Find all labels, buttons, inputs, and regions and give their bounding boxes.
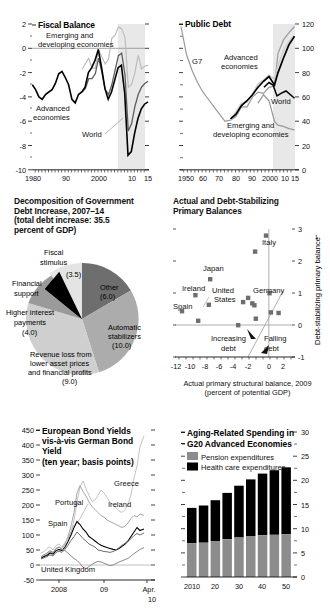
x-tick-label: -8 xyxy=(202,362,209,371)
y-tick-label: 150 xyxy=(22,516,34,525)
bar-pension-2050 xyxy=(281,534,291,577)
pie-label-revenue-loss-l1: Revenue loss from xyxy=(30,350,92,359)
bar-health-2025 xyxy=(222,493,232,539)
scatter-point xyxy=(207,303,211,307)
y-tick-label: 300 xyxy=(22,471,34,480)
scatter-points xyxy=(180,233,281,327)
x-tick-label: 60 xyxy=(199,174,207,183)
pie-label-higher-interest-l1: Higher interest xyxy=(6,308,54,317)
x-tick-label: 10 xyxy=(148,595,156,604)
bar-health-2050 xyxy=(281,467,291,534)
portugal-leader-line xyxy=(77,504,88,524)
pie-label-automatic-stabilizers-l1: Automatic xyxy=(108,323,141,332)
y-tick-label: 1 xyxy=(298,289,302,298)
primary-balances-title: Actual and Debt-Stabilizing Primary Bala… xyxy=(165,193,330,216)
bond-yields-title-l4: (ten year; basis points) xyxy=(42,457,134,467)
x-tick-label: 15 xyxy=(144,174,152,183)
series-label-emerging-line1: Emerging and xyxy=(46,31,93,40)
title-line-2: Primary Balances xyxy=(173,207,326,217)
x-tick-label: Apr. xyxy=(143,585,156,594)
scatter-label-spain: Spain xyxy=(173,302,192,311)
panel-debt-decomposition: Decomposition of Government Debt Increas… xyxy=(0,193,165,393)
y-tick-label: 2 xyxy=(298,257,302,266)
legend-label-health: Health care expenditures xyxy=(201,463,286,472)
y-tick-label: 400 xyxy=(22,441,34,450)
series-label-advanced-line2: economies xyxy=(221,62,258,71)
y-tick-label: 2 xyxy=(22,20,26,29)
figure-root: 2 0 -2 -4 -6 -8 -10 xyxy=(0,0,330,608)
y-tick-label: 40 xyxy=(302,117,310,126)
primary-balances-xlabel: Actual primary structural balance, 2009 … xyxy=(165,379,330,397)
panel-primary-balances: Actual and Debt-Stabilizing Primary Bala… xyxy=(165,193,330,398)
y-axis-ticks-right xyxy=(295,24,299,170)
scatter-point xyxy=(276,311,280,315)
series-label-advanced-line1: Advanced xyxy=(224,53,258,62)
aging-title-l2: G20 Advanced Economies xyxy=(187,439,292,449)
pie-value-higher-interest: (4.0) xyxy=(22,328,37,337)
y-axis-ticks-right xyxy=(292,229,295,357)
pie-value-automatic-stabilizers: (10.0) xyxy=(112,341,131,350)
scatter-point xyxy=(236,323,240,327)
y-axis-ticks-right xyxy=(293,432,297,577)
panel-aging-spending: 30 25 20 15 10 5 0 xyxy=(165,405,330,608)
scatter-label-united-states: United xyxy=(212,286,234,295)
x-tick-label: -2 xyxy=(245,362,252,371)
y-tick-label: 0 xyxy=(298,321,302,330)
pie-value-other: (6.0) xyxy=(100,292,115,301)
pie-label-revenue-loss-l2: lower asset prices xyxy=(30,359,89,368)
bar-pension-2030 xyxy=(234,538,244,578)
scatter-label-germany: Germany xyxy=(253,286,284,295)
x-tick-label: 90 xyxy=(62,174,70,183)
y-tick-label: 0 xyxy=(30,561,34,570)
scatter-point xyxy=(208,277,212,281)
panel-public-debt: 120 100 80 60 40 20 0 xyxy=(165,6,330,186)
pie-label-revenue-loss-l3: and financial profits xyxy=(28,368,92,377)
y-tick-label: 0 xyxy=(22,44,26,53)
series-label-world: World xyxy=(82,130,102,139)
x-tick-label: 09 xyxy=(100,585,108,594)
annotation-falling-debt-l1: Falling xyxy=(264,334,286,343)
aging-spending-chart: 30 25 20 15 10 5 0 xyxy=(165,405,330,608)
series-label-ireland: Ireland xyxy=(108,500,131,509)
y-tick-label: 100 xyxy=(22,531,34,540)
y-tick-label: 350 xyxy=(22,456,34,465)
y-tick-label: 200 xyxy=(22,501,34,510)
x-tick-label: -12 xyxy=(171,362,182,371)
x-tick-label: 90 xyxy=(248,174,256,183)
y-tick-label: 450 xyxy=(22,426,34,435)
x-tick-label: 2008 xyxy=(51,585,67,594)
series-label-portugal: Portugal xyxy=(55,498,84,507)
series-label-greece: Greece xyxy=(114,479,139,488)
scatter-chart: 3 2 1 0 -1 -12 -10 -8 -6 -4 -2 xyxy=(165,217,330,397)
scatter-point xyxy=(241,300,245,304)
y-tick-label: -8 xyxy=(20,142,27,151)
scatter-point xyxy=(193,293,197,297)
aging-title-l1: Aging-Related Spending in xyxy=(187,428,294,438)
y-tick-label: 20 xyxy=(302,142,310,151)
series-label-emerging-line1: Emerging and xyxy=(227,121,274,130)
y-tick-label: 3 xyxy=(298,225,302,234)
y-axis-title-superscript: 1 xyxy=(315,234,318,240)
x-axis-major-ticks xyxy=(59,580,147,583)
fiscal-balance-title: Fiscal Balance xyxy=(38,20,95,30)
public-debt-chart: 120 100 80 60 40 20 0 xyxy=(165,6,330,186)
x-tick-label: 2010 xyxy=(184,582,200,591)
y-axis-ticks-left xyxy=(28,24,32,170)
bar-health-2030 xyxy=(234,486,244,538)
bar-health-2045 xyxy=(270,470,280,535)
bond-yields-title-l1: European Bond Yields xyxy=(42,426,131,436)
y-tick-label: 0 xyxy=(302,166,306,175)
pie-value-fiscal-stimulus: (3.5) xyxy=(66,270,81,279)
pie-label-automatic-stabilizers-l2: stabilizers xyxy=(108,332,141,341)
annotation-increasing-debt-l1: Increasing xyxy=(211,334,246,343)
series-label-world: World xyxy=(271,97,291,106)
scatter-point xyxy=(252,303,256,307)
series-label-emerging-line2: developing economies xyxy=(38,40,114,49)
xlabel-line-2: (percent of potential GDP) xyxy=(165,388,330,397)
x-tick-label: 1980 xyxy=(25,174,41,183)
bar-health-2010 xyxy=(187,508,197,543)
series-label-advanced-line2: economies xyxy=(33,113,70,122)
bar-pension-2025 xyxy=(222,539,232,577)
series-label-united-kingdom: United Kingdom xyxy=(41,565,95,574)
y-axis-ticks-left xyxy=(181,432,185,577)
